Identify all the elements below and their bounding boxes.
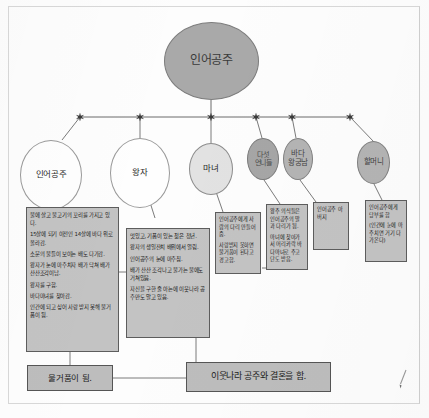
- star-connector-icon: [136, 113, 145, 122]
- node-label: 할머니: [364, 158, 384, 167]
- detail-box-prince: 멋있고, 기품이 있는 젊은 청년. 왕자의 생일잔치 배위에서 열림. 인어공…: [126, 228, 210, 338]
- diagram-canvas: 인어공주 인어공주 왕자 마녀 다섯 언니들 바다 왕궁남 할머니 물에 살고 …: [0, 0, 429, 418]
- node-character-mermaid[interactable]: 인어공주: [20, 140, 82, 210]
- node-label: 인어공주: [36, 170, 66, 180]
- detail-line: 멋있고, 기품이 있는 젊은 청년.: [130, 232, 206, 240]
- detail-line: 인어공주에게 당부를 함: [369, 204, 403, 219]
- detail-line: (인간에 눈에 마주치면 거기 다가온다): [369, 222, 403, 245]
- detail-line: 사랑받지 못하면 물거품이 된다고 경고함.: [219, 242, 257, 265]
- detail-box-witch: 인어공주에게 사람의 다리 만들어 줌. 사랑받지 못하면 물거품이 된다고 경…: [215, 212, 261, 274]
- node-label: 바다 왕궁남: [288, 150, 308, 167]
- node-character-sea-king[interactable]: 바다 왕궁남: [283, 138, 313, 180]
- outcome-box-mermaid: 물거품이 됨.: [27, 365, 113, 391]
- detail-line: 소문의 물들이 보이는 배도 다가감.: [30, 250, 115, 258]
- detail-box-sea-king: 인어공주 아버지: [313, 202, 349, 250]
- node-character-witch[interactable]: 마녀: [189, 143, 233, 195]
- detail-line: 인어공주의 눈에 마주침.: [130, 255, 206, 263]
- detail-box-sisters: 왕주 의식들은 인어공주의 말과 다리가 됨. 마녀에 찾아가서 머리카락 바다…: [266, 204, 308, 270]
- node-label: 마녀: [203, 164, 218, 174]
- detail-line: 바다마녀를 찾아감.: [30, 292, 115, 300]
- outcome-label: 이웃나라 공주와 결혼을 함.: [211, 370, 306, 383]
- detail-line: 왕자가 눈에 마주치자 배가 닥쳐 배가 산산조각이남.: [30, 261, 115, 277]
- star-connector-icon: [252, 113, 261, 122]
- detail-box-mermaid: 물에 살고 물고기의 꼬리를 가지고 있다. 15살에 되기 이전인 14살에 …: [26, 207, 119, 352]
- node-root-label: 인어공주: [190, 54, 232, 68]
- detail-line: 왕주 의식들은 인어공주의 말과 다리가 됨.: [270, 208, 304, 231]
- detail-line: 왕자의 생일잔치 배위에서 열림.: [130, 243, 206, 251]
- detail-line: 자신을 구한 줄 아는에 이웃나라 공주만도 알고 있음.: [130, 285, 206, 301]
- node-label: 다섯 언니들: [255, 151, 272, 167]
- node-character-prince[interactable]: 왕자: [110, 138, 170, 208]
- detail-line: 인어공주에게 사람의 다리 만들어 줌.: [219, 216, 257, 239]
- detail-line: 배가 산산 조각나고 물가는 물에도 거쳐있음.: [130, 266, 206, 282]
- detail-line: 왕자를 구함.: [30, 281, 115, 289]
- node-character-grandmother[interactable]: 할머니: [357, 141, 390, 184]
- star-connector-icon: [346, 113, 355, 122]
- detail-line: 마녀에 찾아가서 머리카락 바다마녀로 주고 단도 받음.: [270, 234, 304, 264]
- node-label: 왕자: [132, 168, 147, 178]
- detail-box-grandmother: 인어공주에게 당부를 함 (인간에 눈에 마주치면 거기 다가온다): [365, 200, 407, 262]
- detail-line: 15살에 되기 이전인 14살에 바다 위로 올라감.: [30, 230, 115, 246]
- pen-mark-icon: [397, 368, 411, 396]
- detail-line: 인어공주 아버지: [317, 206, 345, 221]
- detail-line: 인간에 되고 싶어 사랑 받지 못해 물거품이 됨.: [30, 303, 115, 319]
- outcome-label: 물거품이 됨.: [48, 372, 91, 384]
- star-connector-icon: [76, 113, 85, 122]
- node-character-sisters[interactable]: 다섯 언니들: [247, 138, 279, 180]
- star-connector-icon: [207, 113, 216, 122]
- node-root-mermaid[interactable]: 인어공주: [164, 22, 259, 100]
- detail-line: 물에 살고 물고기의 꼬리를 가지고 있다.: [30, 211, 115, 227]
- star-connector-icon: [288, 113, 297, 122]
- outcome-box-prince: 이웃나라 공주와 결혼을 함.: [186, 362, 331, 392]
